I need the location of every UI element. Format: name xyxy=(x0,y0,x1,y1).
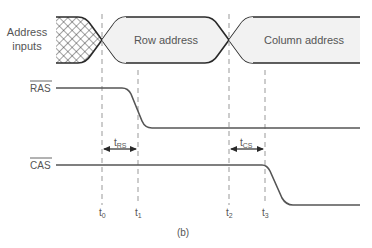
address-inputs-label-line1: Address xyxy=(7,26,48,38)
t1-label: t1 xyxy=(135,207,142,219)
ras-label: RAS xyxy=(30,83,51,94)
figure-label: (b) xyxy=(177,227,189,238)
invalid-address-region xyxy=(56,17,102,63)
row-address-label: Row address xyxy=(134,34,199,46)
trs-label: tRS xyxy=(114,137,127,149)
t2-label: t2 xyxy=(226,207,233,219)
address-inputs-label-line2: inputs xyxy=(12,40,42,52)
t0-label: t0 xyxy=(99,207,106,219)
cas-label: CAS xyxy=(30,160,51,171)
tcs-label: tCS xyxy=(240,137,253,149)
t3-label: t3 xyxy=(262,207,269,219)
timing-diagram: Address inputs Row address Column addres… xyxy=(0,0,372,248)
column-address-label: Column address xyxy=(264,34,345,46)
